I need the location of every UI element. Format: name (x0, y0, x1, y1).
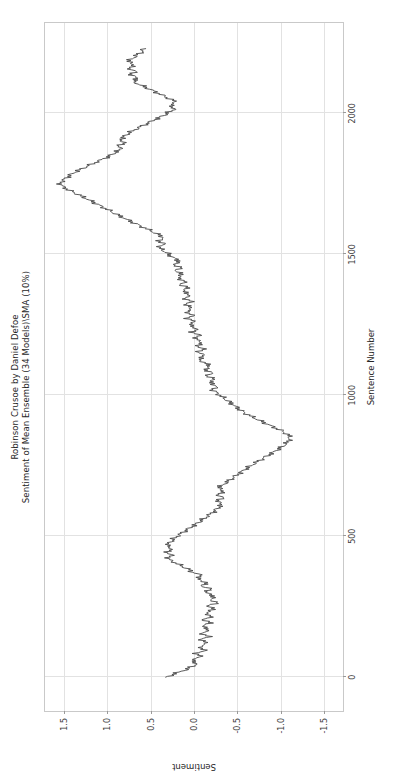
y-tick-mark (107, 711, 108, 714)
x-tick-label: 500 (348, 529, 357, 544)
chart-subtitle: Sentiment of Mean Ensemble (34 Models)\S… (21, 0, 32, 774)
x-tick-label: 1500 (348, 244, 357, 264)
y-tick-mark (237, 711, 238, 714)
y-tick-label: -1.0 (276, 718, 285, 734)
plot-area: 05001000150020001.51.00.50.0-0.5-1.0-1.5 (44, 22, 344, 712)
y-tick-label: 0.5 (146, 718, 155, 731)
x-tick-mark (343, 535, 346, 536)
rotated-figure-wrapper: Robinson Crusoe by Daniel Defoe Sentimen… (0, 0, 402, 774)
x-tick-label: 0 (348, 675, 357, 680)
x-tick-mark (343, 112, 346, 113)
x-tick-mark (343, 253, 346, 254)
y-tick-label: 1.0 (103, 718, 112, 731)
chart-title: Robinson Crusoe by Daniel Defoe (10, 0, 21, 774)
x-axis-label: Sentence Number (366, 22, 376, 712)
y-tick-mark (64, 711, 65, 714)
x-tick-mark (343, 394, 346, 395)
y-tick-mark (281, 711, 282, 714)
chart-figure: Robinson Crusoe by Daniel Defoe Sentimen… (0, 0, 402, 774)
series-canvas (45, 23, 343, 711)
x-tick-label: 2000 (348, 103, 357, 123)
sentiment-line (56, 49, 292, 678)
y-tick-label: 1.5 (60, 718, 69, 731)
x-tick-mark (343, 676, 346, 677)
y-tick-mark (324, 711, 325, 714)
y-axis-label: Sentiment (44, 760, 344, 774)
y-tick-label: -0.5 (233, 718, 242, 734)
chart-title-block: Robinson Crusoe by Daniel Defoe Sentimen… (10, 0, 31, 774)
y-tick-mark (151, 711, 152, 714)
y-tick-label: -1.5 (319, 718, 328, 734)
x-tick-label: 1000 (348, 385, 357, 405)
y-tick-mark (194, 711, 195, 714)
y-tick-label: 0.0 (190, 718, 199, 731)
